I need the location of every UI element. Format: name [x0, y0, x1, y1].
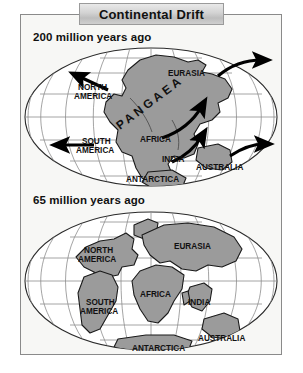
label-south-america-line1: SOUTH	[82, 137, 111, 146]
label-australia: AUSTRALIA	[198, 334, 245, 343]
label-south-america-line1: SOUTH	[86, 298, 115, 307]
continental-drift-figure: Continental Drift 200 million years ago	[0, 0, 303, 373]
label-australia: AUSTRALIA	[196, 163, 243, 172]
figure-title-tab: Continental Drift	[79, 3, 224, 25]
label-eurasia: EURASIA	[168, 69, 205, 78]
map-65-million-years-ago: NORTH AMERICA EURASIA SOUTH AMERICA AFRI…	[22, 209, 280, 353]
page-title: Continental Drift	[99, 7, 204, 22]
label-antarctica: ANTARCTICA	[126, 175, 179, 184]
heading-65-million-years-ago: 65 million years ago	[33, 194, 145, 206]
label-eurasia: EURASIA	[174, 242, 211, 251]
label-india: INDIA	[188, 298, 210, 307]
label-africa: AFRICA	[140, 135, 171, 144]
label-south-america-line2: AMERICA	[76, 146, 114, 155]
label-north-america-line2: AMERICA	[78, 255, 116, 264]
label-antarctica: ANTARCTICA	[132, 344, 185, 353]
heading-200-million-years-ago: 200 million years ago	[33, 31, 151, 43]
label-india: INDIA	[162, 155, 184, 164]
label-africa: AFRICA	[140, 290, 171, 299]
map-200-million-years-ago: PANGAEA NORTH AMERICA EURASIA SOUTH AMER…	[22, 46, 280, 188]
label-north-america-line1: NORTH	[78, 83, 107, 92]
label-south-america-line2: AMERICA	[80, 307, 118, 316]
label-north-america-line1: NORTH	[84, 246, 113, 255]
label-north-america-line2: AMERICA	[74, 92, 112, 101]
